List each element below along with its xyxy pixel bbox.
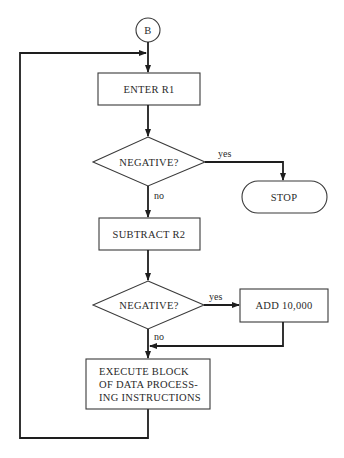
decision1-label: NEGATIVE? bbox=[119, 157, 178, 168]
decision2-label: NEGATIVE? bbox=[119, 300, 178, 311]
edge-add-merge bbox=[150, 322, 283, 346]
process-subtract-r2: SUBTRACT R2 bbox=[99, 218, 200, 250]
add-label: ADD 10,000 bbox=[255, 300, 312, 311]
execute-line-3: ING INSTRUCTIONS bbox=[99, 392, 201, 403]
flowchart: B ENTER R1 NEGATIVE? yes STOP no SUBTRAC… bbox=[0, 0, 344, 458]
subtract-label: SUBTRACT R2 bbox=[113, 229, 186, 240]
process-enter-r1: ENTER R1 bbox=[98, 73, 200, 105]
execute-line-1: EXECUTE BLOCK bbox=[99, 366, 189, 377]
d1-no-label: no bbox=[154, 190, 164, 201]
edge-d1-yes bbox=[205, 162, 283, 180]
connector-b: B bbox=[136, 18, 160, 42]
d2-no-label: no bbox=[154, 331, 164, 342]
terminal-stop: STOP bbox=[242, 181, 327, 213]
decision-negative-2: NEGATIVE? bbox=[93, 281, 204, 329]
connector-label: B bbox=[144, 25, 151, 36]
process-execute-block: EXECUTE BLOCK OF DATA PROCESS- ING INSTR… bbox=[86, 359, 210, 409]
enter-label: ENTER R1 bbox=[123, 84, 174, 95]
d2-yes-label: yes bbox=[209, 291, 222, 302]
decision-negative-1: NEGATIVE? bbox=[93, 137, 205, 186]
execute-line-2: OF DATA PROCESS- bbox=[99, 379, 198, 390]
d1-yes-label: yes bbox=[218, 148, 231, 159]
process-add-10000: ADD 10,000 bbox=[240, 289, 328, 322]
stop-label: STOP bbox=[271, 192, 298, 203]
